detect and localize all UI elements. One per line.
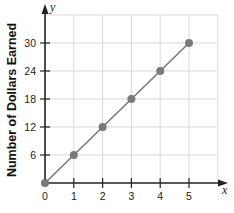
data-point (70, 151, 78, 159)
x-axis-name: x (221, 183, 228, 197)
x-tick-label: 1 (71, 190, 77, 202)
line-chart: x y 012345612182430 Number of Dollars Ea… (0, 0, 234, 213)
data-point (156, 67, 164, 75)
y-tick-label: 24 (24, 65, 36, 77)
y-tick-label: 12 (24, 121, 36, 133)
data-point (127, 95, 135, 103)
y-tick-label: 6 (30, 149, 36, 161)
series-line (45, 43, 189, 183)
data-point (41, 179, 49, 187)
y-axis-name: y (49, 0, 56, 14)
x-tick-label: 2 (100, 190, 106, 202)
x-tick-label: 3 (128, 190, 134, 202)
data-series (41, 39, 193, 187)
x-tick-label: 4 (157, 190, 163, 202)
y-axis-label: Number of Dollars Earned (5, 23, 19, 177)
data-point (185, 39, 193, 47)
y-tick-label: 30 (24, 37, 36, 49)
data-point (99, 123, 107, 131)
y-tick-label: 18 (24, 93, 36, 105)
y-axis-arrow-icon (42, 4, 49, 14)
ticks: 012345612182430 (24, 37, 192, 202)
x-tick-label: 5 (186, 190, 192, 202)
x-tick-label: 0 (42, 190, 48, 202)
